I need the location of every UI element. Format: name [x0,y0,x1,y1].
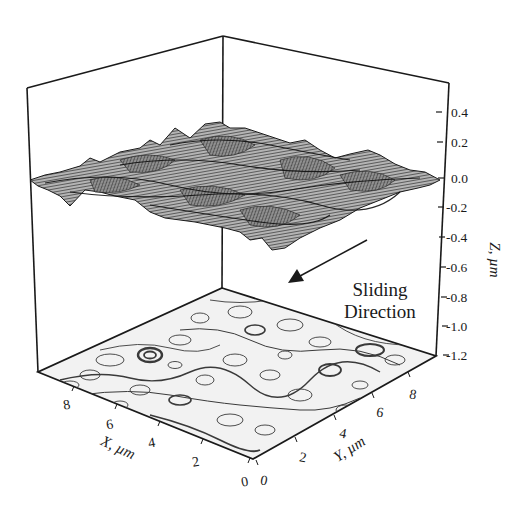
y-tick-label: 4 [338,425,347,441]
x-tick-label: 4 [147,435,156,451]
z-tick-label: -0.4 [446,230,468,245]
z-tick-label: -0.2 [446,200,467,215]
y-tick-label: 2 [298,449,307,465]
surface-mesh [30,122,440,250]
y-axis-title: Y, µm [331,433,368,465]
plot-svg: 0.4 0.2 0.0 -0.2 -0.4 -0.6 -0.8 -1.0 -1.… [0,0,517,510]
y-tick-label: 8 [408,386,417,402]
x-tick-label: 2 [191,454,200,470]
z-tick-label: -1.0 [446,319,468,334]
z-tick-label: -0.8 [446,290,468,305]
y-tick-label: 6 [375,404,384,420]
x-tick-label: 8 [62,397,71,413]
annotation-line2: Direction [344,301,416,322]
sliding-direction-arrow [288,240,367,283]
z-tick-label: -1.2 [446,348,467,363]
x-tick-label: 6 [105,417,114,433]
x-tick-label: 0 [240,474,249,490]
surface-plot-figure: 0.4 0.2 0.0 -0.2 -0.4 -0.6 -0.8 -1.0 -1.… [0,0,517,510]
z-tick-labels: 0.4 0.2 0.0 -0.2 -0.4 -0.6 -0.8 -1.0 -1.… [446,105,468,363]
y-tick-label: 0 [259,472,268,488]
z-axis-title: Z, µm [487,242,503,277]
arrowhead-icon [288,269,304,283]
annotation-line1: Sliding [353,279,408,300]
x-axis-title: X, µm [97,432,138,462]
z-tick-label: -0.6 [446,260,468,275]
z-tick-label: 0.0 [451,171,468,186]
z-tick-label: 0.2 [451,135,468,150]
z-tick-label: 0.4 [451,105,468,120]
